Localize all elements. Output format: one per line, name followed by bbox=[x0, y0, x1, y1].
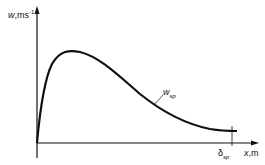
delta-sp-label: δsp bbox=[218, 149, 229, 160]
x-axis bbox=[37, 141, 259, 146]
x-axis-label: x,m bbox=[244, 149, 259, 158]
curve-label-leader bbox=[154, 95, 163, 105]
x-axis-arrow-icon bbox=[251, 141, 259, 146]
wsp-curve bbox=[37, 51, 237, 143]
y-axis-arrow-icon bbox=[35, 6, 40, 14]
y-axis-label: w,ms-1 bbox=[8, 9, 34, 20]
diagram-canvas bbox=[0, 0, 265, 165]
curve-label: wsp bbox=[163, 88, 176, 99]
